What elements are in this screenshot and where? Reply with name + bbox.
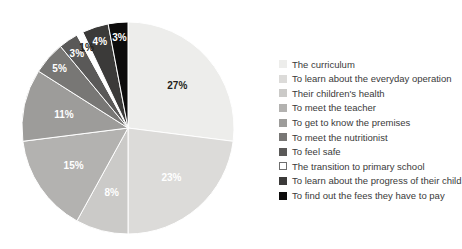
legend-item-label: The transition to primary school (292, 162, 425, 172)
legend-item-label: To meet the teacher (292, 103, 376, 113)
pie-slice-value-label: 8% (104, 186, 118, 197)
legend-item[interactable]: To get to know the premises (279, 115, 459, 130)
legend-color-swatch (279, 148, 287, 156)
legend-item[interactable]: The curriculum (279, 57, 459, 72)
legend-item-label: The curriculum (292, 60, 355, 70)
legend-color-swatch (279, 75, 287, 83)
legend-item-label: To get to know the premises (292, 118, 410, 128)
legend-color-swatch (279, 133, 287, 141)
pie-slice-value-label: 4% (93, 36, 107, 47)
legend-item-label: To meet the nutritionist (292, 133, 388, 143)
pie-slice-value-label: 27% (167, 79, 187, 90)
pie-slice-value-label: 11% (54, 108, 73, 119)
legend-color-swatch (279, 162, 287, 170)
legend-item[interactable]: To learn about the everyday operation (279, 72, 459, 87)
legend-item[interactable]: To find out the fees they have to pay (279, 188, 459, 203)
legend-item[interactable]: To feel safe (279, 145, 459, 160)
legend-color-swatch (279, 177, 287, 185)
legend-item[interactable]: To learn about the progress of their chi… (279, 174, 459, 189)
pie-slice-value-label: 3% (112, 32, 126, 43)
legend-item[interactable]: To meet the nutritionist (279, 130, 459, 145)
pie-slice-value-label: 15% (64, 159, 84, 170)
legend-item[interactable]: The transition to primary school (279, 159, 459, 174)
pie-chart-page: 27%23%8%15%11%5%3%1%4%3% The curriculumT… (0, 0, 462, 249)
legend-item-label: To feel safe (292, 147, 341, 157)
legend-item-label: To learn about the everyday operation (292, 74, 452, 84)
legend-item[interactable]: To meet the teacher (279, 101, 459, 116)
pie-chart-area: 27%23%8%15%11%5%3%1%4%3% (0, 0, 262, 249)
legend-item[interactable]: Their children's health (279, 86, 459, 101)
chart-legend: The curriculumTo learn about the everyda… (279, 57, 459, 203)
legend-color-swatch (279, 60, 287, 68)
legend-item-label: To find out the fees they have to pay (292, 191, 445, 201)
legend-item-label: To learn about the progress of their chi… (292, 176, 462, 186)
pie-slices-group (22, 22, 234, 234)
pie-chart-svg (0, 0, 262, 249)
legend-color-swatch (279, 119, 287, 127)
legend-color-swatch (279, 89, 287, 97)
pie-slice-value-label: 23% (161, 172, 181, 183)
legend-color-swatch (279, 104, 287, 112)
legend-color-swatch (279, 192, 287, 200)
legend-item-label: Their children's health (292, 89, 385, 99)
pie-slice-value-label: 5% (52, 62, 66, 73)
